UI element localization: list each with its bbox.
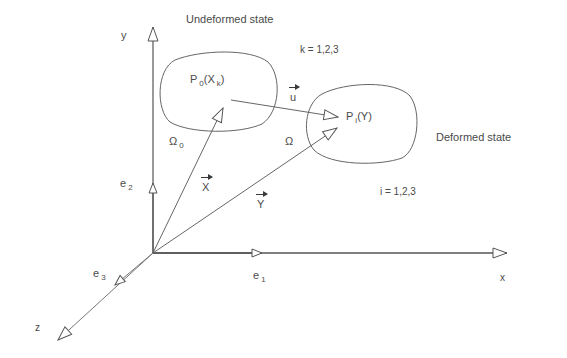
- k-index-range: k = 1,2,3: [300, 45, 339, 55]
- p0-arg: (X: [204, 73, 215, 85]
- vector-X-label: X: [202, 182, 209, 193]
- pi-label: Pi(Y): [346, 111, 372, 125]
- vector-Y-label: Y: [257, 199, 264, 210]
- e3-label: e3: [93, 268, 106, 282]
- y-axis-label: y: [121, 30, 127, 41]
- e2-label: e2: [120, 178, 133, 192]
- p0-base: P: [190, 73, 197, 85]
- omega0-sub: 0: [179, 141, 183, 150]
- omega0-label: Ω0: [169, 136, 184, 150]
- vector-u-label: u: [290, 92, 296, 103]
- z-axis-label: z: [35, 323, 40, 333]
- e3-base: e: [93, 267, 99, 279]
- p0-arg-close: ): [221, 73, 225, 85]
- position-vector-X: [153, 108, 223, 253]
- e1-sub: 1: [261, 275, 265, 284]
- pi-arg: (Y): [357, 110, 372, 122]
- e2-base: e: [120, 177, 126, 189]
- e1-base: e: [253, 269, 259, 281]
- displacement-vector-u: [231, 100, 338, 117]
- undeformed-body-outline: [160, 52, 277, 131]
- undeformed-state-title: Undeformed state: [186, 14, 273, 25]
- i-index-range: i = 1,2,3: [380, 187, 416, 197]
- p0-label: P0(Xk): [190, 74, 224, 88]
- vector-Y-text: Y: [257, 199, 264, 210]
- omega-label: Ω: [285, 136, 293, 147]
- diagram-graphics: [0, 0, 567, 358]
- z-axis: [58, 253, 153, 340]
- deformation-diagram: Undeformed state Deformed state k = 1,2,…: [0, 0, 567, 358]
- pi-base: P: [346, 110, 353, 122]
- e3-basis-vector: [115, 253, 153, 285]
- deformed-state-title: Deformed state: [436, 132, 511, 143]
- omega0-base: Ω: [169, 135, 177, 147]
- e2-sub: 2: [128, 183, 132, 192]
- x-axis-label: x: [500, 273, 505, 283]
- vector-X-text: X: [202, 182, 209, 193]
- vector-u-text: u: [290, 92, 296, 103]
- e3-sub: 3: [101, 273, 105, 282]
- e1-label: e1: [253, 270, 266, 284]
